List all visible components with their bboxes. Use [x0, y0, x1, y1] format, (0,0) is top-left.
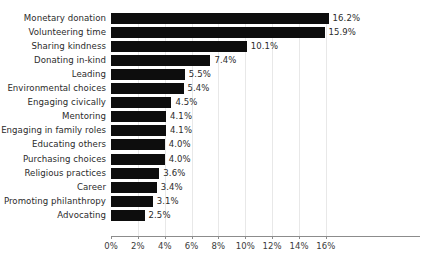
bar-row: Engaging in family roles4.1% [0, 125, 443, 136]
x-axis-tick-label: 8% [212, 241, 226, 251]
bar [111, 154, 165, 165]
bar-value-label: 16.2% [333, 13, 361, 24]
bar-row: Advocating2.5% [0, 210, 443, 221]
x-axis-tick [165, 236, 166, 239]
bar [111, 210, 145, 221]
bar [111, 97, 171, 108]
x-axis-tick-label: 12% [263, 241, 282, 251]
bar [111, 27, 325, 38]
x-axis-line [111, 236, 420, 237]
bar-row: Monetary donation16.2% [0, 13, 443, 24]
x-axis-tick [111, 236, 112, 239]
bar-chart: 0%2%4%6%8%10%12%14%16%Monetary donation1… [0, 0, 443, 263]
category-label: Donating in-kind [0, 55, 106, 66]
category-label: Career [0, 182, 106, 193]
bar [111, 168, 159, 179]
x-axis-tick-label: 10% [236, 241, 255, 251]
x-axis-tick-label: 6% [185, 241, 199, 251]
bar-value-label: 5.5% [189, 69, 211, 80]
bar-row: Purchasing choices4.0% [0, 154, 443, 165]
bar-row: Career3.4% [0, 182, 443, 193]
bar-row: Promoting philanthropy3.1% [0, 196, 443, 207]
bar-value-label: 4.1% [170, 125, 192, 136]
x-axis-tick-label: 2% [131, 241, 145, 251]
category-label: Engaging civically [0, 97, 106, 108]
bar-value-label: 7.4% [214, 55, 236, 66]
bar [111, 139, 165, 150]
x-axis-tick [299, 236, 300, 239]
bar-value-label: 15.9% [329, 27, 357, 38]
bar-row: Volunteering time15.9% [0, 27, 443, 38]
bar-value-label: 5.4% [188, 83, 210, 94]
category-label: Monetary donation [0, 13, 106, 24]
category-label: Purchasing choices [0, 154, 106, 165]
bar-value-label: 3.1% [157, 196, 179, 207]
bar-value-label: 3.4% [161, 182, 183, 193]
bar-value-label: 4.1% [170, 111, 192, 122]
bar-row: Environmental choices5.4% [0, 83, 443, 94]
category-label: Sharing kindness [0, 41, 106, 52]
bar-row: Engaging civically4.5% [0, 97, 443, 108]
bar-value-label: 4.5% [175, 97, 197, 108]
x-axis-tick [245, 236, 246, 239]
x-axis-tick-label: 14% [289, 241, 308, 251]
x-axis-tick [326, 236, 327, 239]
x-axis-tick [138, 236, 139, 239]
category-label: Educating others [0, 139, 106, 150]
category-label: Promoting philanthropy [0, 196, 106, 207]
bar-row: Leading5.5% [0, 69, 443, 80]
bar-value-label: 3.6% [163, 168, 185, 179]
plot-area: 0%2%4%6%8%10%12%14%16%Monetary donation1… [0, 0, 443, 263]
bar [111, 69, 185, 80]
bar-row: Donating in-kind7.4% [0, 55, 443, 66]
category-label: Volunteering time [0, 27, 106, 38]
x-axis-tick [272, 236, 273, 239]
category-label: Religious practices [0, 168, 106, 179]
category-label: Advocating [0, 210, 106, 221]
bar [111, 182, 157, 193]
bar [111, 196, 153, 207]
bar-value-label: 4.0% [169, 139, 191, 150]
bar [111, 13, 329, 24]
bar-value-label: 4.0% [169, 154, 191, 165]
bar-value-label: 2.5% [149, 210, 171, 221]
bar [111, 83, 184, 94]
category-label: Engaging in family roles [0, 125, 106, 136]
bar-row: Religious practices3.6% [0, 168, 443, 179]
bar-row: Sharing kindness10.1% [0, 41, 443, 52]
bar [111, 55, 210, 66]
x-axis-tick-label: 0% [104, 241, 118, 251]
category-label: Leading [0, 69, 106, 80]
bar-row: Educating others4.0% [0, 139, 443, 150]
x-axis-tick [218, 236, 219, 239]
category-label: Environmental choices [0, 83, 106, 94]
category-label: Mentoring [0, 111, 106, 122]
x-axis-tick [192, 236, 193, 239]
bar-value-label: 10.1% [251, 41, 279, 52]
bar [111, 125, 166, 136]
bar [111, 41, 247, 52]
x-axis-tick-label: 16% [316, 241, 335, 251]
bar-row: Mentoring4.1% [0, 111, 443, 122]
bar [111, 111, 166, 122]
x-axis-tick-label: 4% [158, 241, 172, 251]
